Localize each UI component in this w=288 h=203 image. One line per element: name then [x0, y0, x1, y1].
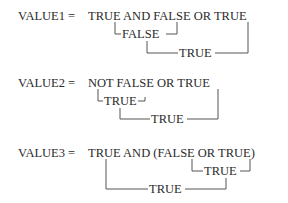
- bracket-2b-right: [187, 89, 218, 119]
- bracket-3b-left: [106, 159, 148, 189]
- bracket-2a-right: [138, 97, 145, 101]
- value2-step2-result: TRUE: [150, 112, 185, 126]
- value1-expression: TRUE AND FALSE OR TRUE: [88, 9, 247, 23]
- value3-lhs: VALUE3 =: [18, 146, 75, 160]
- value1-lhs: VALUE1 =: [18, 9, 75, 23]
- value1-step1-result: FALSE: [121, 27, 160, 41]
- bracket-3a-right: [240, 159, 250, 171]
- value2-lhs: VALUE2 =: [18, 76, 75, 90]
- value3-expression: TRUE AND (FALSE OR TRUE): [88, 146, 255, 160]
- bracket-3a-left: [192, 159, 203, 171]
- value3-step2-result: TRUE: [148, 182, 183, 196]
- value3-step1-result: TRUE: [203, 164, 238, 178]
- bracket-1b-right: [215, 22, 248, 53]
- bracket-1a-right: [166, 22, 177, 34]
- value2-expression: NOT FALSE OR TRUE: [88, 76, 210, 90]
- value2-step1-result: TRUE: [103, 94, 138, 108]
- value1-step2-result: TRUE: [178, 46, 213, 60]
